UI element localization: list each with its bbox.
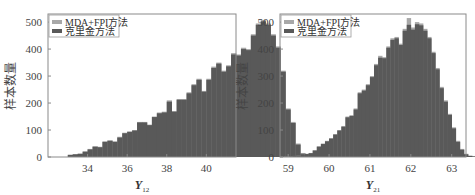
- histogram-bar: [206, 80, 211, 157]
- histogram-bar: [423, 31, 427, 157]
- histogram-bar: [201, 92, 206, 157]
- x-axis-label: Y21: [366, 178, 381, 194]
- histogram-bar: [394, 38, 398, 157]
- histogram-bar: [317, 147, 321, 157]
- legend-label: 克里金方法: [65, 25, 115, 37]
- histogram-panel-y21: 01002003004005005960616263样本数量Y21MDA+FPI…: [235, 0, 475, 195]
- histogram-bar: [182, 100, 187, 157]
- x-tick-label: 36: [122, 162, 134, 174]
- legend-swatch-icon: [52, 20, 62, 24]
- x-tick-label: 62: [405, 162, 416, 174]
- legend-swatch-icon: [284, 29, 294, 33]
- x-tick-label: 60: [324, 162, 336, 174]
- legend: MDA+FPI方法克里金方法: [49, 15, 128, 37]
- histogram-bar: [419, 25, 423, 157]
- histogram-bar: [172, 112, 177, 157]
- histogram-bar: [226, 66, 231, 157]
- histogram-bar: [362, 91, 366, 157]
- histogram-bar: [468, 156, 472, 157]
- histogram-bar: [93, 147, 98, 157]
- histogram-bar: [309, 153, 313, 157]
- histogram-bar: [329, 139, 333, 157]
- y-tick-label: 200: [26, 97, 43, 109]
- legend: MDA+FPI方法克里金方法: [281, 15, 360, 37]
- y-tick-label: 100: [258, 124, 275, 136]
- histogram-bar: [211, 68, 216, 157]
- histogram-bar: [313, 151, 317, 157]
- histogram-bar: [378, 58, 382, 157]
- histogram-bar: [191, 85, 196, 157]
- y-tick-label: 200: [258, 97, 275, 109]
- y-tick-label: 500: [26, 16, 43, 28]
- series-kriging: [284, 24, 475, 157]
- histogram-bar: [386, 48, 390, 157]
- y-axis-label: 样本数量: [235, 62, 250, 110]
- histogram-bar: [152, 117, 157, 157]
- y-tick-label: 500: [258, 16, 275, 28]
- x-tick-label: 63: [446, 162, 458, 174]
- histogram-bar: [112, 142, 117, 157]
- histogram-bar: [142, 122, 147, 157]
- histogram-bar: [460, 150, 464, 157]
- histogram-bar: [439, 88, 443, 157]
- histogram-bar: [102, 142, 107, 157]
- histogram-bar: [147, 125, 152, 157]
- histogram-bar: [345, 117, 349, 157]
- histogram-bar: [122, 133, 127, 157]
- histogram-bar: [444, 102, 448, 157]
- histogram-bar: [107, 141, 112, 157]
- histogram-bar: [382, 58, 386, 157]
- y-tick-label: 300: [258, 70, 275, 82]
- histogram-bar: [366, 85, 370, 157]
- histogram-bar: [132, 131, 137, 157]
- histogram-bar: [127, 132, 132, 157]
- x-tick-label: 61: [364, 162, 375, 174]
- histogram-bar: [390, 40, 394, 157]
- y-tick-label: 100: [26, 124, 43, 136]
- histogram-bar: [411, 30, 415, 157]
- histogram-bar: [403, 31, 407, 157]
- histogram-bar: [216, 64, 221, 157]
- y-axis-label: 样本数量: [3, 62, 18, 110]
- histogram-bar: [117, 138, 122, 157]
- histogram-bar: [358, 93, 362, 157]
- histogram-bar: [456, 142, 460, 157]
- histogram-chart-y21: 01002003004005005960616263样本数量Y21MDA+FPI…: [235, 0, 475, 195]
- y-axis: 0100200300400500: [26, 16, 52, 163]
- histogram-bar: [431, 53, 435, 157]
- histogram-bar: [221, 72, 226, 157]
- y-axis: 0100200300400500: [258, 16, 284, 163]
- histogram-bar: [452, 128, 456, 157]
- histogram-bar: [415, 24, 419, 157]
- histogram-bar: [427, 38, 431, 157]
- y-tick-label: 0: [37, 151, 43, 163]
- legend-swatch-icon: [284, 20, 294, 24]
- histogram-bar: [196, 80, 201, 157]
- histogram-bar: [337, 131, 341, 157]
- histogram-bar: [370, 77, 374, 157]
- legend-label: 克里金方法: [297, 25, 347, 37]
- histogram-bar: [97, 147, 102, 157]
- histogram-bar: [321, 144, 325, 157]
- histogram-bar: [448, 115, 452, 157]
- histogram-bar: [167, 102, 172, 157]
- y-tick-label: 400: [26, 43, 43, 55]
- y-tick-label: 0: [269, 151, 275, 163]
- histogram-bar: [333, 135, 337, 157]
- histogram-bar: [374, 65, 378, 157]
- histogram-bar: [435, 69, 439, 157]
- histogram-bar: [349, 116, 353, 157]
- x-tick-label: 34: [82, 162, 94, 174]
- histogram-bar: [88, 149, 93, 157]
- histogram-bar: [341, 127, 345, 157]
- y-tick-label: 300: [26, 70, 43, 82]
- x-axis-label: Y12: [135, 178, 150, 194]
- histogram-bar: [157, 113, 162, 157]
- histogram-bar: [162, 112, 167, 157]
- histogram-chart-y12: 010020030040050034363840样本数量Y12MDA+FPI方法…: [0, 0, 240, 195]
- x-tick-label: 59: [283, 162, 295, 174]
- y-tick-label: 400: [258, 43, 275, 55]
- histogram-bar: [187, 93, 192, 157]
- histogram-bar: [407, 25, 411, 157]
- histogram-bar: [137, 122, 142, 157]
